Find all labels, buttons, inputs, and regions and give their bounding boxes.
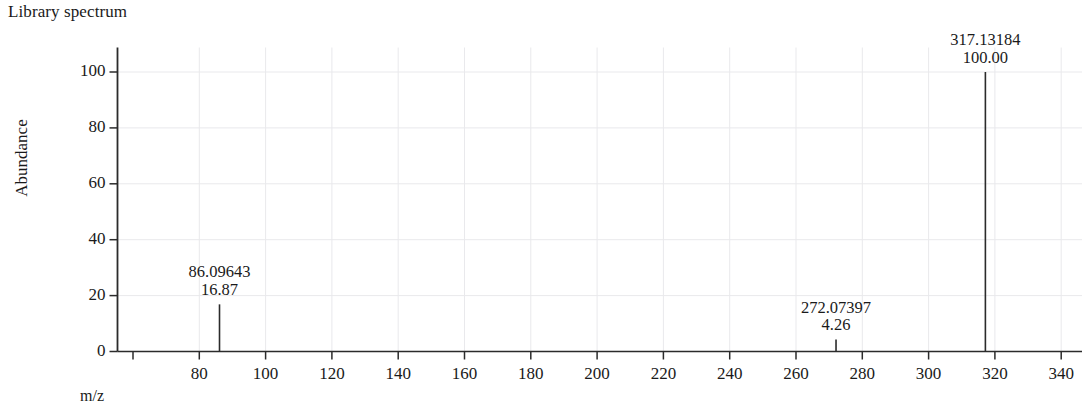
- x-axis-tick-label: 160: [430, 364, 500, 384]
- x-axis-tick-label: 180: [496, 364, 566, 384]
- peak-mz-label: 272.07397: [746, 299, 926, 317]
- y-axis-tick-label: 0: [48, 341, 106, 361]
- y-axis-tick-label: 40: [48, 229, 106, 249]
- peak-mz-label: 317.13184: [895, 31, 1075, 49]
- y-axis-tick-label: 100: [48, 61, 106, 81]
- y-axis-tick-label: 20: [48, 285, 106, 305]
- x-axis-tick-label: 120: [297, 364, 367, 384]
- x-axis-tick-label: 220: [628, 364, 698, 384]
- x-axis-tick-label: 200: [562, 364, 632, 384]
- y-axis-tick-label: 60: [48, 173, 106, 193]
- x-axis-tick-label: 340: [1026, 364, 1082, 384]
- peak-annotation: 317.13184100.00: [895, 31, 1075, 67]
- peak-abundance-label: 4.26: [746, 316, 926, 334]
- peak-abundance-label: 100.00: [895, 49, 1075, 67]
- peak-abundance-label: 16.87: [130, 281, 310, 299]
- peak-annotation: 272.073974.26: [746, 299, 926, 335]
- x-axis-tick-label: 240: [695, 364, 765, 384]
- y-axis-tick-label: 80: [48, 117, 106, 137]
- peak-annotation: 86.0964316.87: [130, 263, 310, 299]
- x-axis-tick-label: 280: [827, 364, 897, 384]
- x-axis-tick-label: 300: [894, 364, 964, 384]
- peak-mz-label: 86.09643: [130, 263, 310, 281]
- x-axis-tick-label: 80: [164, 364, 234, 384]
- x-axis-tick-label: 100: [231, 364, 301, 384]
- x-axis-tick-label: 140: [363, 364, 433, 384]
- x-axis-tick-label: 260: [761, 364, 831, 384]
- x-axis-tick-label: 320: [960, 364, 1030, 384]
- library-spectrum-chart: Library spectrum Abundance m/z 020406080…: [0, 0, 1082, 417]
